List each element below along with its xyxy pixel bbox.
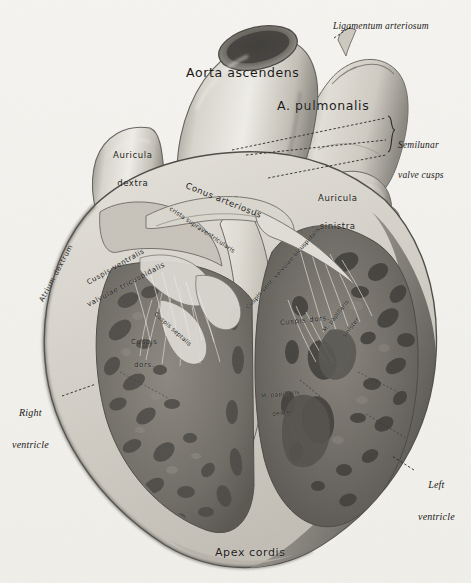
heart-illustration xyxy=(0,0,471,583)
anatomical-plate: Aorta ascendens A. pulmonalis Ligamentum… xyxy=(0,0,471,583)
